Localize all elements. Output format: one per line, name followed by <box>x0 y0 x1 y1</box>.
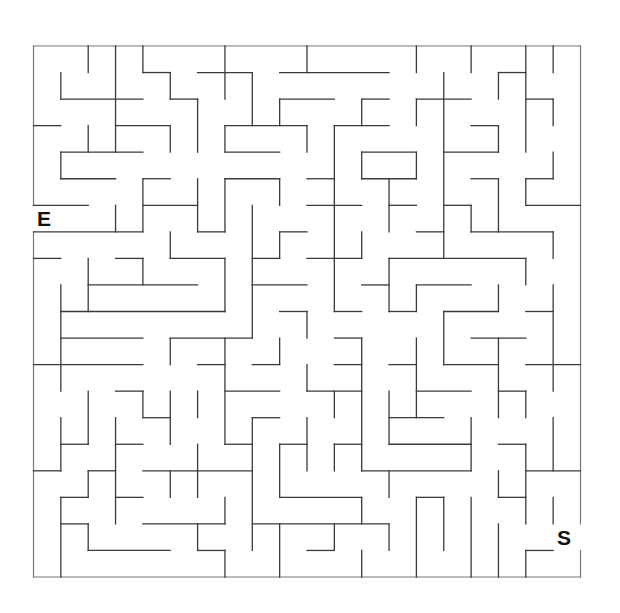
maze-board <box>0 0 620 613</box>
start-label: S <box>557 527 571 548</box>
maze-walls <box>34 46 581 577</box>
entry-label: E <box>37 208 51 229</box>
